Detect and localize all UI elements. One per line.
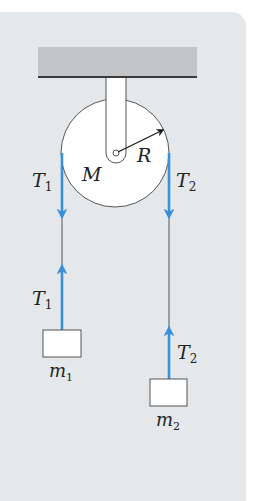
mass-block-m1 [43, 330, 81, 357]
label-tension-right-top: T2 [176, 169, 196, 194]
atwood-machine-diagram: M R T1 T2 T1 T2 m1 m2 [0, 0, 255, 501]
label-tension-right-bottom: T2 [177, 341, 197, 366]
label-mass-m2: m2 [156, 409, 180, 433]
label-pulley-mass: M [81, 163, 102, 185]
label-tension-left-bottom: T1 [32, 287, 52, 312]
label-mass-m1: m1 [49, 360, 73, 384]
label-pulley-radius: R [136, 144, 151, 166]
ceiling [38, 47, 197, 77]
label-tension-left-top: T1 [32, 169, 52, 194]
mass-block-m2 [150, 379, 187, 406]
